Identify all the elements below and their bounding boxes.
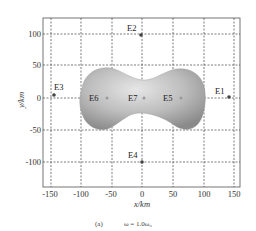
asteroid-body <box>80 68 206 130</box>
x-axis-ticks: -150 -100 -50 0 50 100 150 <box>42 189 240 199</box>
point-e6 <box>106 97 109 100</box>
label-e7: E7 <box>128 93 137 103</box>
svg-text:100: 100 <box>198 189 211 199</box>
svg-text:50: 50 <box>169 189 178 199</box>
svg-text:50: 50 <box>33 60 42 70</box>
point-e2 <box>139 33 143 37</box>
label-e4: E4 <box>128 150 138 160</box>
caption-text: ω = 1.0ω₀ <box>124 220 152 228</box>
svg-text:150: 150 <box>228 189 241 199</box>
caption-label: (a) <box>95 220 103 228</box>
y-axis-ticks: 100 50 0 -50 -100 <box>25 29 41 167</box>
point-e3 <box>52 93 56 97</box>
svg-text:-50: -50 <box>30 125 41 135</box>
x-axis-label: x/km <box>133 199 150 209</box>
chart-figure: E1 E2 E3 E4 E5 E6 E7 100 50 0 -50 -100 -… <box>0 0 256 231</box>
point-e4 <box>140 160 144 164</box>
svg-text:-50: -50 <box>105 189 116 199</box>
point-e7 <box>143 97 146 100</box>
svg-text:-100: -100 <box>25 157 41 167</box>
label-e5: E5 <box>163 93 172 103</box>
y-axis-label: y/km <box>16 92 26 109</box>
label-e6: E6 <box>89 93 98 103</box>
svg-text:-150: -150 <box>42 189 58 199</box>
svg-text:0: 0 <box>37 93 41 103</box>
point-e1 <box>227 95 231 99</box>
label-e2: E2 <box>127 23 136 33</box>
svg-text:0: 0 <box>140 189 144 199</box>
label-e3: E3 <box>54 82 63 92</box>
point-e5 <box>180 97 183 100</box>
label-e1: E1 <box>215 86 224 96</box>
svg-text:-100: -100 <box>73 189 89 199</box>
svg-text:100: 100 <box>28 29 41 39</box>
